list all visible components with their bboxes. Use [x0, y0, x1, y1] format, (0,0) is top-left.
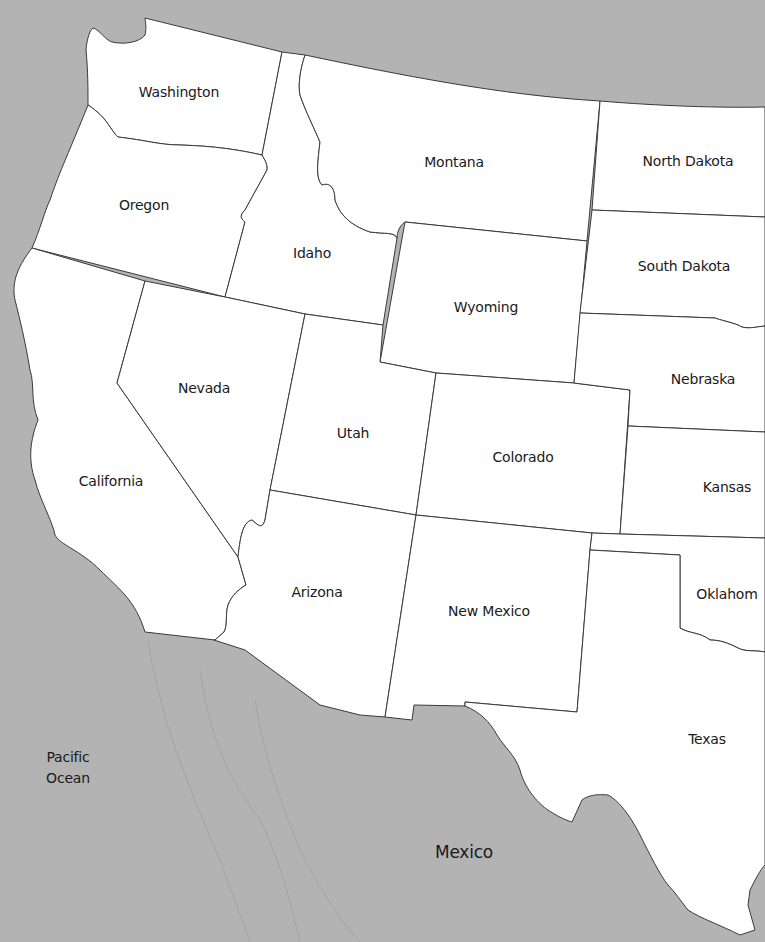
map-canvas [0, 0, 765, 942]
label-arizona: Arizona [291, 584, 342, 600]
label-new-mexico: New Mexico [448, 603, 530, 619]
label-utah: Utah [337, 425, 369, 441]
label-nevada: Nevada [178, 380, 230, 396]
label-idaho: Idaho [293, 245, 331, 261]
label-oregon: Oregon [119, 197, 169, 213]
label-south-dakota: South Dakota [638, 258, 730, 274]
label-washington: Washington [139, 84, 219, 100]
label-pacific-line1: Pacific [46, 747, 90, 768]
label-montana: Montana [424, 154, 484, 170]
label-north-dakota: North Dakota [643, 153, 734, 169]
label-nebraska: Nebraska [671, 371, 735, 387]
label-colorado: Colorado [493, 449, 554, 465]
label-wyoming: Wyoming [454, 299, 518, 315]
label-california: California [79, 473, 143, 489]
label-mexico: Mexico [435, 842, 493, 862]
label-texas: Texas [688, 731, 726, 747]
label-oklahoma: Oklahom [696, 586, 757, 602]
label-pacific-line2: Ocean [46, 768, 90, 789]
label-pacific-ocean: Pacific Ocean [46, 747, 90, 789]
label-kansas: Kansas [703, 479, 751, 495]
